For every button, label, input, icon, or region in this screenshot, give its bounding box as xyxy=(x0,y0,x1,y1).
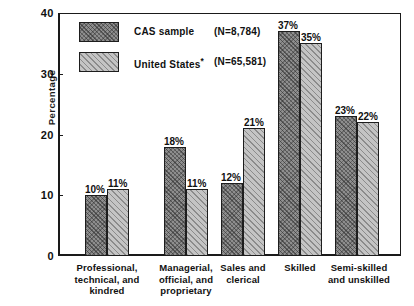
bar-chart: Percentage 40 30 20 10 0 CAS sample (N=8… xyxy=(0,0,414,306)
bar-value-us-semiskilled: 22% xyxy=(358,111,378,123)
bar-us-semiskilled: 22% xyxy=(357,122,379,256)
bar-us-sales: 21% xyxy=(243,128,265,256)
bar-value-us-sales: 21% xyxy=(244,117,264,129)
bar-value-cas-professional: 10% xyxy=(85,184,105,196)
bar-cas-skilled: 37% xyxy=(278,31,300,256)
bar-value-cas-sales: 12% xyxy=(221,172,241,184)
bar-cas-professional: 10% xyxy=(85,195,107,256)
category-label-professional: Professional, technical, and kindred xyxy=(62,262,152,297)
bar-value-us-professional: 11% xyxy=(108,178,127,190)
bar-value-cas-managerial: 18% xyxy=(164,136,184,148)
category-label-semiskilled-line1: Semi-skilled xyxy=(312,262,406,274)
bar-us-skilled: 35% xyxy=(300,43,322,256)
category-label-professional-line1: Professional, xyxy=(62,262,152,274)
category-label-professional-line2: technical, and xyxy=(62,274,152,286)
bar-cas-managerial: 18% xyxy=(164,147,186,256)
category-label-managerial-line3: proprietary xyxy=(141,285,231,297)
category-label-professional-line3: kindred xyxy=(62,285,152,297)
category-label-sales-line2: clerical xyxy=(198,274,288,286)
bar-us-professional: 11% xyxy=(107,189,129,256)
bars-layer: 10% 11% 18% 11% 12% 21% 37% 35% 23% xyxy=(0,0,414,306)
category-label-semiskilled-line2: and unskilled xyxy=(312,274,406,286)
bar-value-cas-semiskilled: 23% xyxy=(335,105,355,117)
bar-cas-sales: 12% xyxy=(221,183,243,256)
bar-value-us-skilled: 35% xyxy=(301,32,321,44)
bar-value-us-managerial: 11% xyxy=(187,178,206,190)
bar-us-managerial: 11% xyxy=(186,189,208,256)
bar-value-cas-skilled: 37% xyxy=(278,20,298,32)
bar-cas-semiskilled: 23% xyxy=(335,116,357,256)
category-label-semiskilled: Semi-skilled and unskilled xyxy=(312,262,406,285)
